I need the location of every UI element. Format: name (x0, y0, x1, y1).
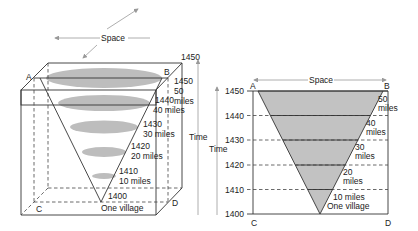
level-1450-year: 1450 (174, 76, 193, 86)
space-label-right: Space (309, 75, 333, 85)
band-30-line2: miles (355, 151, 375, 161)
tick-1430: 1430 (225, 135, 244, 145)
level-1400-year: 1400 (108, 191, 127, 201)
time-label-left: Time (189, 132, 208, 142)
corner-c-right: C (251, 218, 257, 228)
left-3d-diagram: Space A B C D 1450 (21, 9, 208, 215)
space-arrow-diagonal (107, 9, 138, 29)
level-1450-radius: 50 (174, 86, 184, 96)
band-50-line2: miles (378, 103, 398, 113)
top-year-label: 1450 (181, 52, 200, 62)
time-label-right: Time (209, 144, 228, 154)
level-1400-radius: One village (101, 203, 144, 213)
corner-b-label: B (164, 67, 170, 77)
corner-a-label: A (26, 72, 32, 82)
level-1430-year: 1430 (143, 119, 162, 129)
level-1430-radius: 30 miles (143, 129, 175, 139)
space-label: Space (101, 33, 125, 43)
band-20-line2: miles (343, 176, 363, 186)
level-1410-radius: 10 miles (119, 176, 151, 186)
space-time-diagram: Space A B C D 1450 (0, 0, 418, 231)
corner-c-label: C (36, 204, 42, 214)
tick-1400: 1400 (225, 209, 244, 219)
corner-d-right: D (385, 218, 391, 228)
level-1420-radius: 20 miles (131, 151, 163, 161)
level-1440-year: 1440 (155, 95, 174, 105)
band-40-line2: miles (366, 127, 386, 137)
ellipse-1430 (70, 121, 138, 134)
corner-b-right: B (384, 81, 390, 91)
hidden-bottom-left (21, 188, 48, 215)
tick-1440: 1440 (225, 111, 244, 121)
space-arrow-diagonal-down (83, 45, 97, 58)
tick-1410: 1410 (225, 185, 244, 195)
ellipse-1420 (82, 147, 126, 157)
level-1440-radius: 40 miles (153, 105, 185, 115)
corner-d-label: D (172, 198, 178, 208)
band-10-line2: One village (327, 201, 370, 211)
right-2d-diagram: Time Space 1450 1440 1430 1420 1410 1400… (209, 75, 398, 228)
level-1420-year: 1420 (131, 141, 150, 151)
ellipse-1440 (58, 95, 150, 111)
corner-a-right: A (250, 81, 256, 91)
tick-1420: 1420 (225, 160, 244, 170)
tick-1450: 1450 (225, 86, 244, 96)
level-1410-year: 1410 (119, 166, 138, 176)
